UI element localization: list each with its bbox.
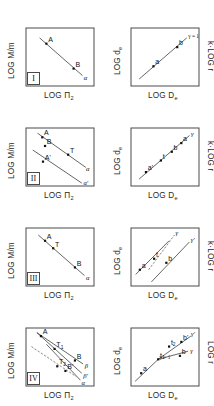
point-label-t: t — [163, 153, 165, 160]
line-label-gamma-dashed-line: γ — [175, 229, 178, 236]
x-axis-label-right: LOG De — [148, 191, 178, 201]
x-axis-label-left: LOG Π2 — [44, 291, 74, 301]
point-label-T: T — [70, 147, 75, 154]
beta-prime-line — [37, 333, 82, 374]
panel-left-row-2: αα'ABTA'II — [26, 128, 94, 186]
point-label-A: A — [44, 129, 49, 136]
panel-frame — [131, 228, 199, 286]
y-axis-label-left: LOG M/m — [7, 242, 16, 279]
data-point-A — [45, 43, 47, 45]
point-label-b: b — [168, 255, 172, 262]
line-label-alpha-line: α — [82, 379, 86, 386]
line-label-alpha-prime-line: α' — [83, 179, 88, 186]
point-label-t2: t2 — [171, 339, 176, 348]
point-label-T1: T1 — [56, 341, 63, 350]
line-label-alpha-line: α — [86, 165, 90, 172]
point-label-A: A — [47, 233, 52, 240]
y-axis-label-right: LOG de — [113, 347, 123, 375]
data-point-T — [52, 247, 54, 249]
point-label-b: b — [179, 39, 183, 46]
point-label-a: a — [142, 262, 146, 269]
y-axis-label-right: LOG de — [113, 47, 123, 75]
x-axis-label-left: LOG Π2 — [44, 391, 74, 401]
line-label-gamma-prime-line: γ' — [191, 330, 196, 337]
panel-right-row-4: γ = 1γ'γat1t2b'b — [131, 328, 199, 386]
data-point-t — [153, 258, 155, 260]
point-label-t: t — [156, 251, 158, 258]
data-point-t2 — [168, 345, 170, 347]
roman-numeral-IV: IV — [29, 374, 38, 383]
roman-numeral-III: III — [30, 274, 38, 283]
data-point-A — [40, 335, 42, 337]
data-point-A — [41, 136, 43, 138]
x-axis-label-right: LOG De — [148, 291, 178, 301]
point-label-a: a — [183, 135, 187, 142]
axes-left-row-1: LOG M/mLOG Π2 — [7, 42, 74, 100]
panel-right-row-1: γ = 1ab — [131, 28, 199, 86]
point-label-b: b — [174, 144, 178, 151]
x-axis-label-right: LOG De — [148, 391, 178, 401]
x-axis-label-right: LOG De — [148, 91, 178, 101]
point-label-B: B — [75, 61, 80, 68]
secondary-axis-label: k·LOG r — [206, 141, 214, 172]
data-point-t — [160, 159, 162, 161]
roman-numeral-I: I — [32, 74, 35, 83]
panel-left-row-3: αATBIII — [26, 228, 94, 286]
y-axis-label-left: LOG M/m — [7, 342, 16, 379]
data-point-B — [44, 145, 46, 147]
y-axis-label-right: LOG de — [113, 147, 123, 175]
line-label-gamma-prime-line: γ' — [191, 236, 196, 243]
point-label-B: B — [77, 260, 82, 267]
point-label-b: b — [182, 348, 186, 355]
data-point-b — [179, 355, 181, 357]
point-label-a: a — [155, 58, 159, 65]
panel-left-row-4: ββ'αAT1T2B'BIV — [26, 328, 94, 386]
point-label-a: a — [143, 365, 147, 372]
line-label-gamma-line: γ = 1 — [187, 33, 199, 39]
point-label-T: T — [55, 241, 60, 248]
data-point-T — [67, 154, 69, 156]
data-point-b — [171, 151, 173, 153]
data-point-t1 — [157, 358, 159, 360]
line-label-alpha-line: α — [86, 274, 90, 281]
data-point-T2 — [56, 365, 58, 367]
x-axis-label-left: LOG Π2 — [44, 191, 74, 201]
point-label-A: A — [43, 328, 48, 335]
point-label-aprime: a' — [148, 164, 153, 171]
secondary-axis-label: k·LOG r — [206, 41, 214, 72]
line-label-gamma-line: γ — [191, 130, 194, 137]
roman-numeral-II: II — [31, 174, 37, 183]
data-point-B — [74, 359, 76, 361]
secondary-axis-label: k·LOG r — [206, 241, 214, 272]
point-label-Aprime: A' — [45, 154, 51, 161]
panel-right-row-2: γa'tba — [131, 128, 199, 186]
y-axis-label-left: LOG M/m — [7, 42, 16, 79]
panel-right-row-3: γγ'atb — [131, 228, 199, 286]
data-point-Aprime — [42, 161, 44, 163]
point-label-A: A — [48, 36, 53, 43]
gamma-dashed-line — [149, 235, 175, 270]
data-point-a — [152, 65, 154, 67]
data-point-a — [139, 269, 141, 271]
point-label-bprime: b' — [183, 334, 188, 341]
data-point-b — [165, 262, 167, 264]
panel-left-row-1: αABI — [26, 28, 94, 86]
point-label-B: B — [47, 138, 52, 145]
secondary-axis-label: LOG r — [206, 341, 214, 364]
line-label-alpha-line: α — [84, 74, 88, 81]
data-point-T1 — [53, 348, 55, 350]
data-point-a — [140, 372, 142, 374]
figure-root: αABILOG M/mLOG Π2γ = 1abLOG deLOG Dek·LO… — [0, 0, 214, 406]
line-label-beta-line: β — [84, 362, 89, 369]
line-label-gamma-line: γ — [190, 347, 193, 354]
data-point-bprime — [180, 341, 182, 343]
figure-svg: αABILOG M/mLOG Π2γ = 1abLOG deLOG Dek·LO… — [0, 0, 214, 406]
data-point-A — [44, 240, 46, 242]
data-point-B — [74, 266, 76, 268]
data-point-a — [180, 142, 182, 144]
x-axis-label-left: LOG Π2 — [44, 91, 74, 101]
data-point-B — [73, 68, 75, 70]
point-label-Bprime: B' — [67, 363, 73, 370]
y-axis-label-left: LOG M/m — [7, 142, 16, 179]
data-point-aprime — [145, 171, 147, 173]
